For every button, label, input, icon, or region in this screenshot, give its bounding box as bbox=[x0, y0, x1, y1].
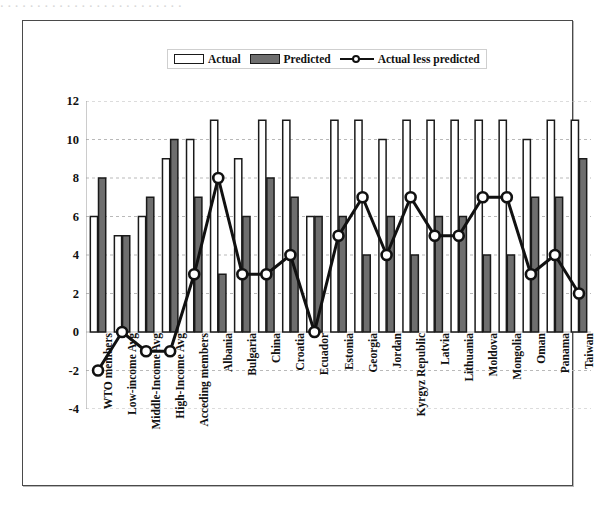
difference-marker bbox=[382, 250, 392, 260]
difference-marker bbox=[550, 250, 560, 260]
difference-marker bbox=[574, 289, 584, 299]
bar-predicted bbox=[267, 178, 274, 332]
legend-item-predicted: Predicted bbox=[250, 53, 331, 65]
line-marker-swatch-icon bbox=[340, 54, 374, 65]
x-tick-label: Middle-Income Avg bbox=[151, 333, 163, 430]
x-tick-label: Latvia bbox=[440, 333, 452, 365]
bar-actual bbox=[571, 120, 578, 332]
bar-actual bbox=[283, 120, 290, 332]
y-tick-label: 4 bbox=[45, 248, 79, 263]
y-tick-label: 6 bbox=[45, 209, 79, 224]
y-tick-label: 10 bbox=[45, 132, 79, 147]
difference-marker bbox=[358, 192, 368, 202]
filled-bar-swatch-icon bbox=[250, 54, 280, 64]
y-tick-label: 12 bbox=[45, 94, 79, 109]
x-tick-label: Moldova bbox=[488, 333, 500, 376]
bar-actual bbox=[523, 140, 530, 333]
bar-actual bbox=[187, 140, 194, 333]
figure-frame: Actual Predicted Actual less predicted -… bbox=[22, 20, 573, 486]
bar-actual bbox=[162, 159, 169, 332]
bar-predicted bbox=[171, 140, 178, 333]
chart-legend: Actual Predicted Actual less predicted bbox=[167, 49, 487, 69]
difference-marker bbox=[189, 269, 199, 279]
bar-predicted bbox=[363, 255, 370, 332]
x-tick-label: Kyrgyz Republic bbox=[416, 333, 428, 416]
x-tick-label: Croatia bbox=[295, 333, 307, 370]
legend-label-predicted: Predicted bbox=[284, 53, 331, 65]
y-tick-label: 2 bbox=[45, 286, 79, 301]
x-tick-label: Low-income Avg bbox=[127, 333, 139, 415]
difference-marker bbox=[454, 231, 464, 241]
bar-actual bbox=[355, 120, 362, 332]
x-tick-label: Ecuador bbox=[319, 333, 331, 375]
bar-actual bbox=[331, 120, 338, 332]
x-tick-label: China bbox=[271, 333, 283, 363]
y-tick-label: -4 bbox=[45, 402, 79, 417]
x-tick-label: Acceding members bbox=[199, 333, 211, 427]
bar-predicted bbox=[123, 236, 130, 332]
difference-marker bbox=[430, 231, 440, 241]
bar-actual bbox=[259, 120, 266, 332]
bar-predicted bbox=[411, 255, 418, 332]
legend-label-difference: Actual less predicted bbox=[378, 53, 480, 65]
x-tick-label: Bulgaria bbox=[247, 333, 259, 376]
bar-actual bbox=[114, 236, 121, 332]
difference-marker bbox=[526, 269, 536, 279]
bar-predicted bbox=[219, 274, 226, 332]
bar-actual bbox=[211, 120, 218, 332]
x-axis-tick-labels: WTO membersLow-income AvgMiddle-Income A… bbox=[86, 333, 591, 483]
bar-predicted bbox=[531, 197, 538, 332]
difference-marker bbox=[502, 192, 512, 202]
difference-marker bbox=[334, 231, 344, 241]
difference-marker bbox=[285, 250, 295, 260]
scan-artifact-top: · · · · · · · · · · · · · · · · · · · · … bbox=[0, 0, 595, 16]
bar-actual bbox=[403, 120, 410, 332]
x-tick-label: Estonia bbox=[344, 333, 356, 370]
y-tick-label: -2 bbox=[45, 363, 79, 378]
bar-actual bbox=[138, 217, 145, 333]
x-tick-label: Taiwan bbox=[584, 333, 595, 369]
bar-predicted bbox=[483, 255, 490, 332]
bar-predicted bbox=[387, 217, 394, 333]
difference-marker bbox=[213, 173, 223, 183]
bar-predicted bbox=[507, 255, 514, 332]
bar-predicted bbox=[147, 197, 154, 332]
x-tick-label: WTO members bbox=[103, 333, 115, 409]
x-tick-label: Mongolia bbox=[512, 333, 524, 380]
y-tick-label: 0 bbox=[45, 325, 79, 340]
x-tick-label: Panama bbox=[560, 333, 572, 373]
x-tick-label: Lithuania bbox=[464, 333, 476, 382]
bar-actual bbox=[451, 120, 458, 332]
y-tick-label: 8 bbox=[45, 171, 79, 186]
bar-layer bbox=[90, 120, 586, 332]
difference-marker bbox=[237, 269, 247, 279]
bar-actual bbox=[90, 217, 97, 333]
bar-actual bbox=[475, 120, 482, 332]
legend-item-difference: Actual less predicted bbox=[340, 53, 480, 65]
hollow-bar-swatch-icon bbox=[174, 54, 204, 64]
bar-actual bbox=[547, 120, 554, 332]
legend-label-actual: Actual bbox=[208, 53, 241, 65]
legend-item-actual: Actual bbox=[174, 53, 241, 65]
difference-marker bbox=[478, 192, 488, 202]
x-tick-label: Jordan bbox=[392, 333, 404, 368]
difference-marker bbox=[406, 192, 416, 202]
bar-predicted bbox=[99, 178, 106, 332]
x-tick-label: High-Income Avg bbox=[175, 333, 187, 419]
difference-marker bbox=[261, 269, 271, 279]
x-tick-label: Oman bbox=[536, 333, 548, 364]
x-tick-label: Georgia bbox=[368, 333, 380, 373]
bar-actual bbox=[499, 120, 506, 332]
x-tick-label: Albania bbox=[223, 333, 235, 372]
bar-predicted bbox=[579, 159, 586, 332]
